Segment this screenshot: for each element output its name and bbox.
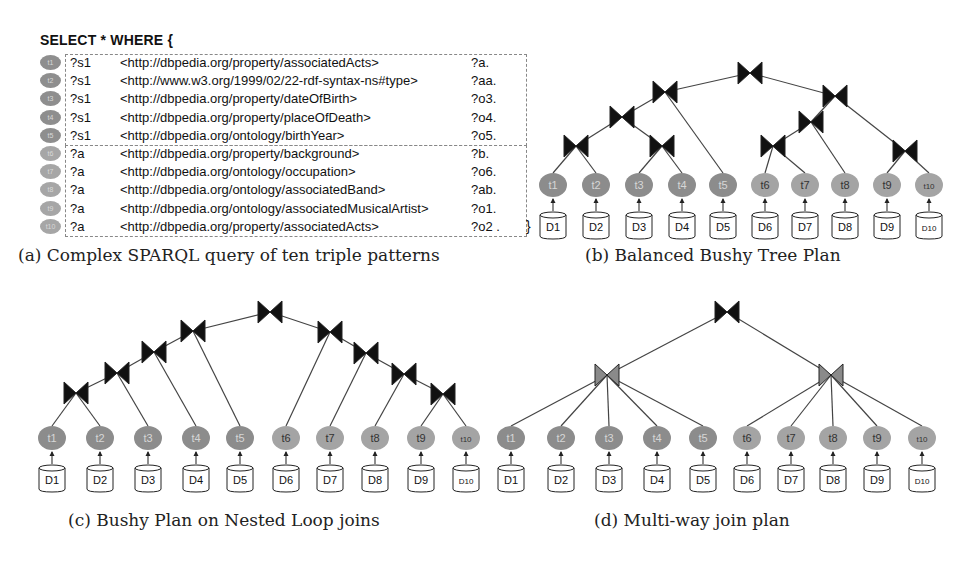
data-source-icon: D9 xyxy=(874,212,900,239)
triple-id-badge: t3 xyxy=(40,91,61,106)
data-source-label: D6 xyxy=(740,474,754,486)
data-source-label: D8 xyxy=(826,474,840,486)
arrow-icon xyxy=(637,198,642,203)
triple-subject: ?s1 xyxy=(70,91,91,106)
triple-leaf-label: t4 xyxy=(677,179,686,191)
data-source-label: D8 xyxy=(368,474,382,486)
triple-leaf-label: t2 xyxy=(95,432,104,444)
triple-leaf-node: t9 xyxy=(873,173,901,197)
plan-edge xyxy=(607,312,727,375)
caption-a: (a) Complex SPARQL query of ten triple p… xyxy=(18,245,440,265)
triple-leaf-label: t1 xyxy=(506,432,515,444)
triple-leaf-label: t9 xyxy=(882,179,891,191)
triple-predicate: <http://dbpedia.org/property/background> xyxy=(120,146,359,161)
plan-edge xyxy=(791,375,831,426)
sparql-query-panel: SELECT * WHERE { t1?s1<http://dbpedia.or… xyxy=(40,32,530,237)
arrow-icon xyxy=(464,451,469,456)
data-source-icon: D4 xyxy=(183,465,209,492)
triple-subject: ?s1 xyxy=(70,128,91,143)
data-source-label: D6 xyxy=(279,474,293,486)
arrow-icon xyxy=(50,451,55,456)
triple-pattern-row: t7?a<http://dbpedia.org/ontology/occupat… xyxy=(40,163,530,181)
triple-leaf-node: t4 xyxy=(182,426,210,450)
join-operator-icon xyxy=(318,321,342,343)
triple-object: ?o1. xyxy=(471,201,496,216)
triple-id-badge: t7 xyxy=(40,164,61,179)
triple-leaf-label: t3 xyxy=(143,432,152,444)
arrow-icon xyxy=(559,451,564,456)
triple-id-badge: t6 xyxy=(40,146,61,161)
arrow-icon xyxy=(146,451,151,456)
triple-object: ?a. xyxy=(471,55,489,70)
triple-predicate: <http://dbpedia.org/property/associatedA… xyxy=(120,55,379,70)
arrow-icon xyxy=(373,451,378,456)
triple-leaf-label: t6 xyxy=(742,432,751,444)
data-source-icon: D3 xyxy=(626,212,652,239)
data-source-label: D2 xyxy=(554,474,568,486)
join-operator-icon xyxy=(610,106,634,128)
join-operator-icon xyxy=(64,382,88,404)
data-source-icon: D3 xyxy=(135,465,161,492)
arrow-icon xyxy=(701,451,706,456)
data-source-icon: D4 xyxy=(669,212,695,239)
triple-id-badge: t10 xyxy=(40,219,61,234)
data-source-label: D10 xyxy=(459,477,474,486)
triple-leaf-node: t2 xyxy=(582,173,610,197)
triple-leaf-label: t4 xyxy=(652,432,661,444)
triple-subject: ?s1 xyxy=(70,55,91,70)
data-source-icon: D7 xyxy=(778,465,804,492)
data-source-icon: D6 xyxy=(752,212,778,239)
triple-leaf-node: t10 xyxy=(908,426,936,450)
triple-object: ?aa. xyxy=(471,73,496,88)
data-source-icon: D7 xyxy=(792,212,818,239)
triple-predicate: <http://www.w3.org/1999/02/22-rdf-syntax… xyxy=(120,73,418,88)
triple-leaf-label: t1 xyxy=(47,432,56,444)
data-source-icon: D8 xyxy=(362,465,388,492)
join-operator-icon xyxy=(799,111,823,133)
data-source-icon: D9 xyxy=(864,465,890,492)
data-source-icon: D2 xyxy=(87,465,113,492)
data-source-icon: D1 xyxy=(540,212,566,239)
multi-way-join-plan-diagram: t1D1t2D2t3D3t4D4t5D5t6D6t7D7t8D8t9D9t10D… xyxy=(490,290,970,500)
data-source-icon: D1 xyxy=(498,465,524,492)
triple-pattern-row: t3?s1<http://dbpedia.org/property/dateOf… xyxy=(40,90,530,108)
data-source-label: D1 xyxy=(45,474,59,486)
triple-leaf-node: t2 xyxy=(86,426,114,450)
data-source-icon: D6 xyxy=(734,465,760,492)
triple-id-badge: t1 xyxy=(40,55,61,70)
join-operator-icon xyxy=(893,140,917,162)
caption-b: (b) Balanced Bushy Tree Plan xyxy=(585,245,841,265)
plan-edge xyxy=(561,375,607,426)
data-source-label: D1 xyxy=(546,221,560,233)
join-operator-icon xyxy=(564,135,588,157)
data-source-icon: D1 xyxy=(39,465,65,492)
triple-pattern-row: t10?a<http://dbpedia.org/property/associ… xyxy=(40,218,530,236)
data-source-icon: D3 xyxy=(596,465,622,492)
data-source-label: D2 xyxy=(93,474,107,486)
plan-edge xyxy=(117,373,148,426)
plan-edge xyxy=(831,375,922,426)
data-source-label: D5 xyxy=(233,474,247,486)
data-source-icon: D2 xyxy=(548,465,574,492)
triple-leaf-node: t9 xyxy=(863,426,891,450)
data-source-label: D9 xyxy=(870,474,884,486)
data-source-label: D4 xyxy=(675,221,689,233)
triple-predicate: <http://dbpedia.org/ontology/birthYear> xyxy=(120,128,344,143)
arrow-icon xyxy=(238,451,243,456)
triple-pattern-row: t5?s1<http://dbpedia.org/ontology/birthY… xyxy=(40,127,530,145)
triple-id-badge: t8 xyxy=(40,182,61,197)
data-source-icon: D5 xyxy=(227,465,253,492)
triple-leaf-label: t8 xyxy=(828,432,837,444)
plan-edge xyxy=(607,375,657,426)
triple-pattern-row: t1?s1<http://dbpedia.org/property/associ… xyxy=(40,54,530,72)
triple-leaf-label: t6 xyxy=(281,432,290,444)
data-source-icon: D8 xyxy=(820,465,846,492)
triple-subject: ?a xyxy=(70,146,84,161)
triple-leaf-node: t6 xyxy=(272,426,300,450)
plan-edge xyxy=(727,312,831,375)
triple-leaf-node: t3 xyxy=(595,426,623,450)
arrow-icon xyxy=(284,451,289,456)
join-operator-icon xyxy=(823,85,847,107)
triple-leaf-node: t10 xyxy=(915,173,943,197)
triple-leaf-label: t3 xyxy=(604,432,613,444)
